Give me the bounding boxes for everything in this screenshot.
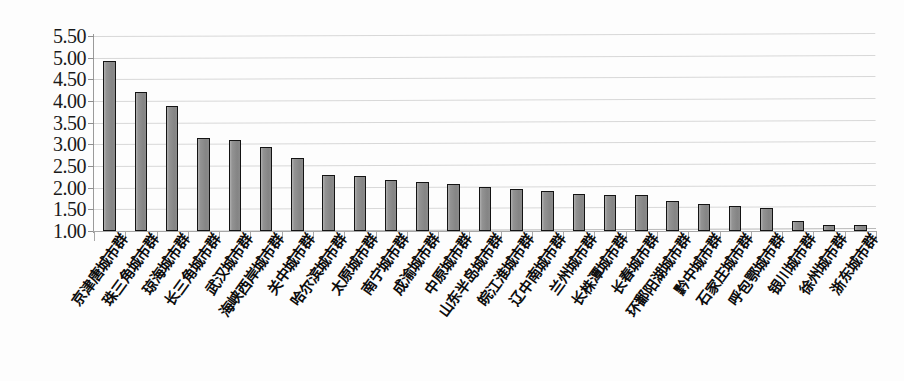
y-tick-mark xyxy=(88,123,94,124)
y-tick-label: 3.50 xyxy=(26,113,86,133)
bar-chart: 5.505.004.504.003.503.002.502.001.501.00… xyxy=(0,0,904,381)
y-tick-mark xyxy=(88,58,94,59)
y-tick-label: 4.00 xyxy=(26,91,86,111)
bar xyxy=(103,61,116,231)
bar xyxy=(760,208,773,231)
y-tick-label: 3.00 xyxy=(26,134,86,154)
gridline xyxy=(93,76,875,80)
y-tick-mark xyxy=(88,166,94,167)
y-tick-mark xyxy=(88,144,94,145)
bar xyxy=(135,92,148,231)
y-tick-label: 5.50 xyxy=(26,26,86,46)
bar xyxy=(698,204,711,231)
plot-area xyxy=(94,36,876,231)
gridline xyxy=(93,55,875,59)
bar xyxy=(416,182,429,231)
bar xyxy=(792,221,805,231)
gridline xyxy=(93,33,875,37)
bar xyxy=(666,201,679,231)
bar xyxy=(510,189,523,231)
bar xyxy=(291,158,304,231)
bar xyxy=(541,191,554,231)
bar xyxy=(604,195,617,231)
gridline xyxy=(94,163,876,167)
x-axis-labels: 京津唐城市群珠三角城市群琼海城市群长三角城市群武汉城市群海峡西岸城市群关中城市群… xyxy=(0,232,904,381)
y-tick-label: 5.00 xyxy=(26,48,86,68)
bar xyxy=(197,138,210,231)
bar xyxy=(729,206,742,231)
bar xyxy=(573,194,586,231)
gridline xyxy=(94,98,876,102)
bar xyxy=(635,195,648,231)
y-tick-mark xyxy=(88,79,94,80)
bar xyxy=(166,106,179,231)
y-tick-mark xyxy=(88,188,94,189)
y-tick-label: 4.50 xyxy=(26,69,86,89)
gridline xyxy=(94,141,876,145)
bar xyxy=(447,184,460,231)
bar xyxy=(229,140,242,231)
y-axis-line xyxy=(93,34,94,233)
bar xyxy=(479,187,492,231)
y-tick-mark xyxy=(88,101,94,102)
bar xyxy=(260,147,273,232)
bar xyxy=(322,175,335,231)
y-tick-label: 1.50 xyxy=(26,199,86,219)
y-tick-mark xyxy=(88,209,94,210)
y-tick-label: 2.00 xyxy=(26,178,86,198)
y-tick-label: 2.50 xyxy=(26,156,86,176)
y-tick-mark xyxy=(88,36,94,37)
bar xyxy=(385,180,398,231)
gridline xyxy=(94,120,876,124)
bar xyxy=(354,176,367,231)
